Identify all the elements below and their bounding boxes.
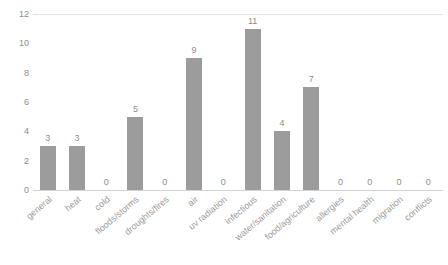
bar-slot: 0: [414, 14, 443, 190]
bar-value-label: 0: [221, 178, 226, 187]
bar-slot: 7: [297, 14, 326, 190]
x-axis-tick: droughts/fires: [150, 191, 179, 265]
y-axis-tick-label: 4: [3, 127, 29, 136]
x-axis-tick: food/agriculture: [297, 191, 326, 265]
x-axis-tick: uv radiation: [209, 191, 238, 265]
bar-chart: 024681012 330509011470000 generalheatcol…: [0, 0, 448, 265]
x-axis-tick: mental health: [355, 191, 384, 265]
bar-value-label: 3: [45, 134, 50, 143]
plot-area: 330509011470000: [33, 14, 443, 190]
x-axis-tick: conflicts: [414, 191, 443, 265]
bar: [127, 117, 143, 190]
bar-slot: 0: [92, 14, 121, 190]
y-axis-tick-label: 0: [3, 186, 29, 195]
bar-value-label: 0: [426, 178, 431, 187]
bar: [245, 29, 261, 190]
bar-slot: 4: [267, 14, 296, 190]
bar-value-label: 7: [309, 75, 314, 84]
x-axis-tick: general: [33, 191, 62, 265]
bar: [303, 87, 319, 190]
bar-value-label: 0: [104, 178, 109, 187]
bar-slot: 3: [33, 14, 62, 190]
bar-value-label: 9: [192, 46, 197, 55]
x-axis-tick: heat: [62, 191, 91, 265]
x-axis-tick-label: cold: [94, 195, 112, 213]
bar: [40, 146, 56, 190]
bar-slot: 5: [121, 14, 150, 190]
x-axis-tick-label: air: [186, 195, 199, 208]
bar-slot: 0: [326, 14, 355, 190]
bar: [69, 146, 85, 190]
bar-slot: 9: [179, 14, 208, 190]
y-axis-tick-label: 6: [3, 98, 29, 107]
y-axis-tick-label: 12: [3, 10, 29, 19]
bar-slot: 3: [62, 14, 91, 190]
x-axis-tick: migration: [384, 191, 413, 265]
bar-slot: 0: [209, 14, 238, 190]
bar-value-label: 11: [248, 17, 257, 26]
bar-value-label: 0: [397, 178, 402, 187]
bar-value-label: 4: [279, 119, 284, 128]
y-axis-tick-label: 10: [3, 39, 29, 48]
x-axis-tick-label: heat: [63, 195, 82, 213]
y-axis-tick-label: 8: [3, 68, 29, 77]
bar-slot: 11: [238, 14, 267, 190]
bar-value-label: 0: [162, 178, 167, 187]
bar-slot: 0: [384, 14, 413, 190]
bar-value-label: 0: [367, 178, 372, 187]
y-axis-tick-label: 2: [3, 156, 29, 165]
bar-value-label: 0: [338, 178, 343, 187]
bar: [274, 131, 290, 190]
bar: [186, 58, 202, 190]
x-axis-labels: generalheatcoldfloods/stormsdroughts/fir…: [33, 191, 443, 265]
y-axis: 024681012: [0, 0, 29, 265]
bar-value-label: 5: [133, 105, 138, 114]
bar-slot: 0: [355, 14, 384, 190]
bar-value-label: 3: [74, 134, 79, 143]
bar-slot: 0: [150, 14, 179, 190]
